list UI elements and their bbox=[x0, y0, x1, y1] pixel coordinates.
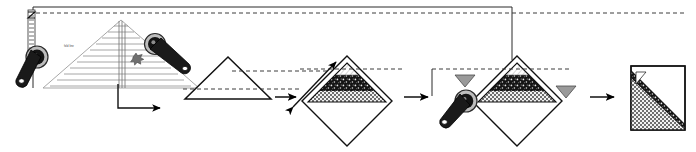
stage-1-note: fold line bbox=[64, 46, 74, 49]
stage-3-textured-diamond bbox=[293, 56, 404, 146]
stage-4-rolled-diamond bbox=[432, 56, 576, 146]
gray-triangle-right bbox=[556, 86, 576, 98]
roller-left bbox=[16, 46, 48, 87]
stage-5-finished-square bbox=[631, 66, 685, 130]
roller-overlay bbox=[440, 90, 477, 128]
diagram-canvas: fold line bbox=[0, 0, 696, 152]
diagram-svg bbox=[0, 0, 696, 152]
stage-2-plain-triangle bbox=[183, 57, 330, 99]
gray-triangle-left bbox=[455, 75, 475, 87]
